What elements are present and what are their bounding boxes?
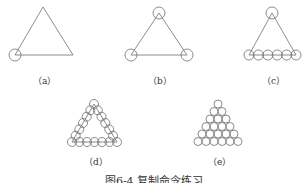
panel-c-label: （c） [262,74,285,87]
panel-e-pyramid [194,100,242,146]
panel-d-triangle [68,100,122,147]
figure-canvas [0,0,308,183]
panel-b-triangle [125,7,193,61]
figure-caption: 图6-4 复制命令练习 [0,172,308,183]
panel-c-triangle [244,7,301,60]
panel-b-label: （b） [148,74,172,87]
panel-d-label: （d） [84,155,108,168]
panel-e-label: （e） [208,155,231,168]
panel-a-label: （a） [33,74,56,87]
panel-a-triangle [9,7,73,61]
